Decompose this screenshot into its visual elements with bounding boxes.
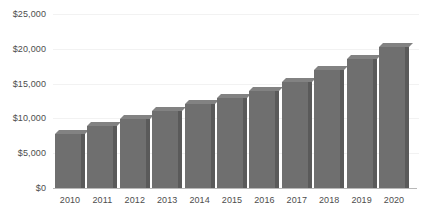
x-axis-tick-label: 2015 — [214, 196, 250, 205]
x-axis-tick-label: 2020 — [376, 196, 412, 205]
x-axis: 2010201120122013201420152016201720182019… — [53, 0, 419, 221]
x-axis-tick-label: 2017 — [279, 196, 315, 205]
x-axis-tick-label: 2019 — [344, 196, 380, 205]
bar-chart: $0$5,000$10,000$15,000$20,000$25,000 201… — [0, 0, 421, 221]
y-axis-tick-label: $15,000 — [13, 79, 46, 88]
y-axis-tick-label: $5,000 — [18, 149, 46, 158]
y-axis-tick-label: $10,000 — [13, 114, 46, 123]
x-axis-tick-label: 2018 — [311, 196, 347, 205]
y-axis-tick-label: $25,000 — [13, 10, 46, 19]
y-axis-tick-label: $20,000 — [13, 44, 46, 53]
x-axis-tick-label: 2014 — [182, 196, 218, 205]
y-axis-tick-label: $0 — [36, 184, 46, 193]
x-axis-tick-label: 2012 — [117, 196, 153, 205]
x-axis-tick-label: 2010 — [52, 196, 88, 205]
x-axis-tick-label: 2011 — [84, 196, 120, 205]
y-axis: $0$5,000$10,000$15,000$20,000$25,000 — [0, 0, 52, 221]
x-axis-tick-label: 2013 — [149, 196, 185, 205]
x-axis-tick-label: 2016 — [246, 196, 282, 205]
